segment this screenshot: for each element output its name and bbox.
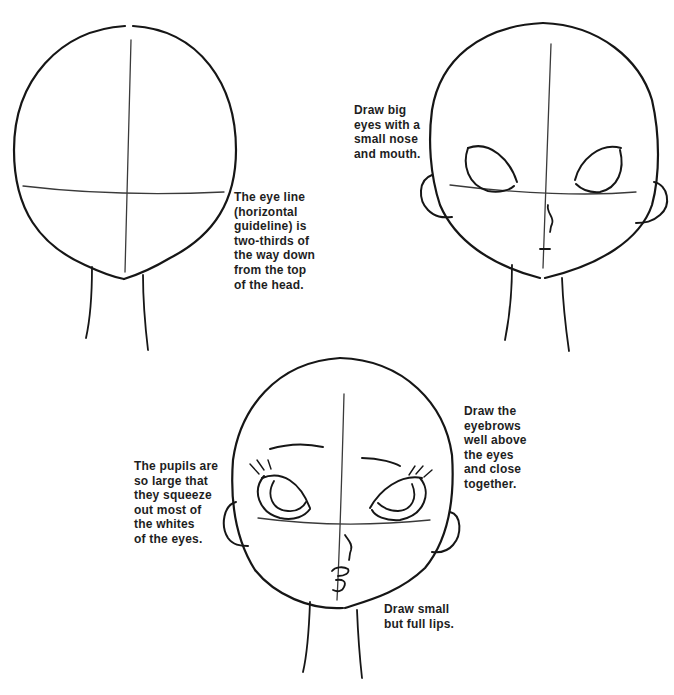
right-pupil xyxy=(378,484,414,511)
sketch-illustrations xyxy=(0,0,674,695)
neck-right xyxy=(357,610,362,678)
left-eye-outline-lower xyxy=(258,476,310,519)
left-eyebrow xyxy=(270,445,323,449)
nose xyxy=(345,535,351,560)
figure-1-head-base xyxy=(14,26,236,350)
right-eye-upper xyxy=(575,147,621,180)
caption-lips: Draw small but full lips. xyxy=(384,602,454,631)
left-eye-upper xyxy=(468,146,517,182)
neck-right xyxy=(562,278,569,351)
right-lash-2 xyxy=(416,466,423,474)
right-eyebrow xyxy=(362,458,400,466)
right-lash-1 xyxy=(409,466,415,475)
right-ear xyxy=(432,512,459,552)
neck-right xyxy=(143,275,148,350)
head-outline-right xyxy=(124,26,236,279)
neck-left xyxy=(303,602,310,672)
right-eye-outline-lower xyxy=(372,478,426,520)
left-lash-1 xyxy=(250,464,259,474)
vertical-guideline xyxy=(337,394,344,600)
caption-eyebrows: Draw the eyebrows well above the eyes an… xyxy=(464,404,527,492)
eye-line-guideline xyxy=(23,186,224,194)
vertical-guideline xyxy=(125,40,131,272)
neck-left xyxy=(505,265,512,340)
left-eye-lower xyxy=(466,148,514,192)
head-outline-left xyxy=(232,358,343,608)
lower-lip xyxy=(333,580,345,591)
right-lash-3 xyxy=(424,470,432,477)
left-lash-3 xyxy=(268,460,271,469)
caption-eye-line: The eye line (horizontal guideline) is t… xyxy=(234,190,315,292)
caption-big-eyes: Draw big eyes with a small nose and mout… xyxy=(354,103,421,161)
head-outline-left xyxy=(14,26,125,279)
head-outline-left xyxy=(430,23,543,278)
left-lash-2 xyxy=(257,460,264,470)
neck-left xyxy=(86,267,92,338)
figure-2-head-features xyxy=(421,23,667,351)
left-pupil xyxy=(270,481,306,511)
nose xyxy=(548,205,553,232)
right-eye-lower xyxy=(576,150,622,192)
head-outline-right xyxy=(543,23,658,278)
left-eye-outline-upper xyxy=(262,476,310,508)
upper-lip xyxy=(332,567,348,576)
caption-pupils: The pupils are so large that they squeez… xyxy=(134,459,218,547)
tutorial-page: The eye line (horizontal guideline) is t… xyxy=(0,0,674,695)
vertical-guideline xyxy=(543,44,551,268)
